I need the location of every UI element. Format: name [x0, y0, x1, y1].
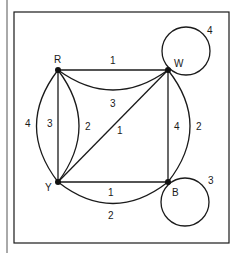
- vertex-label-b: B: [172, 187, 179, 198]
- graph-diagram: R W Y B 1 3 4 3 2 1 4 2 1 2 4 3: [0, 0, 241, 253]
- vertex-label-y: Y: [45, 182, 52, 193]
- vertex-w: [165, 67, 171, 73]
- edge-r-y-inner-arc: [58, 70, 79, 182]
- weight-y-b-straight: 1: [108, 187, 114, 198]
- weight-w-b-straight: 4: [174, 121, 180, 132]
- weight-w-b-outer: 2: [196, 121, 202, 132]
- vertex-y: [55, 179, 61, 185]
- weight-r-y-straight: 3: [47, 118, 53, 129]
- weight-r-y-outer: 4: [25, 118, 31, 129]
- weight-y-w-diag: 1: [117, 125, 123, 136]
- weight-b-loop: 3: [208, 175, 214, 186]
- edge-y-w-diagonal: [58, 70, 168, 182]
- vertex-label-r: R: [54, 54, 61, 65]
- weight-r-y-inner: 2: [85, 121, 91, 132]
- vertex-b: [165, 179, 171, 185]
- vertex-label-w: W: [174, 58, 184, 69]
- vertex-r: [55, 67, 61, 73]
- weight-w-loop: 4: [207, 25, 213, 36]
- weight-r-w-straight: 1: [110, 55, 116, 66]
- weight-y-b-arc: 2: [108, 210, 114, 221]
- weight-r-w-curve: 3: [110, 98, 116, 109]
- edge-b-loop: [161, 178, 209, 226]
